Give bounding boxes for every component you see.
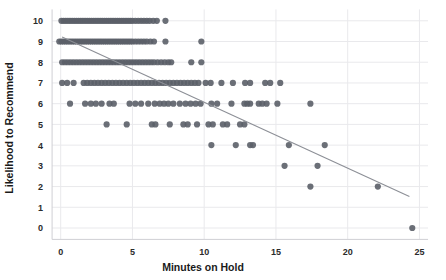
x-tick-label: 25 xyxy=(414,247,424,257)
plot-area: 012345678910 0510152025 Minutes on Hold … xyxy=(0,0,446,280)
data-point xyxy=(247,101,253,107)
data-point xyxy=(224,121,230,127)
data-point xyxy=(162,18,168,24)
data-point xyxy=(322,142,328,148)
y-axis-title: Likelihood to Recommend xyxy=(3,62,15,193)
data-point xyxy=(208,142,214,148)
data-point xyxy=(67,101,73,107)
data-point xyxy=(228,101,234,107)
y-tick-label: 7 xyxy=(38,78,43,88)
data-point xyxy=(375,183,381,189)
data-point xyxy=(162,38,168,44)
data-point xyxy=(194,121,200,127)
data-point xyxy=(138,101,144,107)
data-point xyxy=(198,59,204,65)
data-point xyxy=(198,38,204,44)
scatter-chart-container: 012345678910 0510152025 Minutes on Hold … xyxy=(0,0,446,280)
data-point xyxy=(195,80,201,86)
data-point xyxy=(307,101,313,107)
data-point xyxy=(208,80,214,86)
data-point xyxy=(168,59,174,65)
data-point xyxy=(210,121,216,127)
x-tick-label: 0 xyxy=(58,247,63,257)
data-point xyxy=(185,121,191,127)
data-point xyxy=(274,101,280,107)
data-point xyxy=(264,101,270,107)
data-point xyxy=(151,38,157,44)
data-point xyxy=(250,142,256,148)
data-point xyxy=(230,80,236,86)
data-point xyxy=(132,101,138,107)
data-point xyxy=(167,121,173,127)
data-point xyxy=(286,142,292,148)
y-tick-label: 2 xyxy=(38,182,43,192)
data-point xyxy=(104,121,110,127)
data-point xyxy=(281,163,287,169)
data-point xyxy=(124,121,130,127)
y-tick-label: 4 xyxy=(38,141,43,151)
data-point xyxy=(93,101,99,107)
y-tick-label: 10 xyxy=(33,16,43,26)
y-tick-label: 1 xyxy=(38,203,43,213)
data-point xyxy=(307,183,313,189)
data-point xyxy=(154,18,160,24)
data-point xyxy=(82,101,88,107)
x-tick-label: 10 xyxy=(199,247,209,257)
data-point xyxy=(214,101,220,107)
data-point xyxy=(111,101,117,107)
data-point xyxy=(218,80,224,86)
data-point xyxy=(64,80,70,86)
y-tick-label: 3 xyxy=(38,161,43,171)
y-tick-label: 8 xyxy=(38,58,43,68)
data-point xyxy=(233,142,239,148)
data-point xyxy=(409,225,415,231)
data-point xyxy=(188,59,194,65)
data-point xyxy=(277,80,283,86)
data-point xyxy=(99,101,105,107)
x-tick-label: 5 xyxy=(130,247,135,257)
data-point xyxy=(71,80,77,86)
y-tick-label: 6 xyxy=(38,99,43,109)
data-point xyxy=(170,101,176,107)
x-tick-label: 15 xyxy=(271,247,281,257)
data-point xyxy=(152,121,158,127)
x-tick-label: 20 xyxy=(343,247,353,257)
data-point xyxy=(126,101,132,107)
y-tick-label: 0 xyxy=(38,223,43,233)
data-point xyxy=(145,101,151,107)
y-tick-label: 5 xyxy=(38,120,43,130)
data-point xyxy=(267,80,273,86)
data-point xyxy=(314,163,320,169)
data-point xyxy=(177,101,183,107)
data-point xyxy=(247,80,253,86)
y-tick-label: 9 xyxy=(38,37,43,47)
x-axis-title: Minutes on Hold xyxy=(162,261,244,273)
